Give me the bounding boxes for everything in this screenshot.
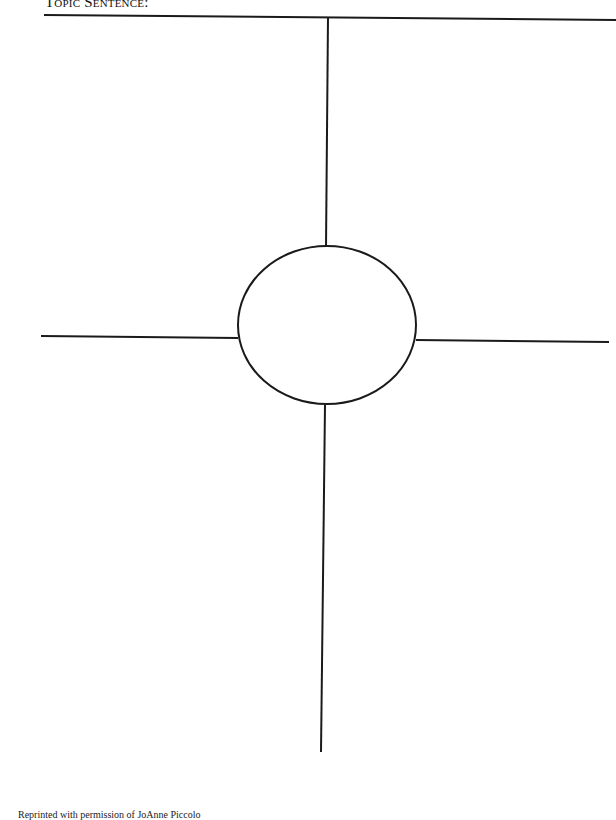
top-vertical-divider [326, 17, 328, 247]
topic-sentence-line [44, 15, 616, 20]
bottom-vertical-divider [321, 405, 325, 752]
left-horizontal-divider [41, 336, 238, 338]
center-circle [238, 246, 416, 404]
credit-footer: Reprinted with permission of JoAnne Picc… [18, 809, 200, 820]
right-horizontal-divider [416, 340, 609, 342]
